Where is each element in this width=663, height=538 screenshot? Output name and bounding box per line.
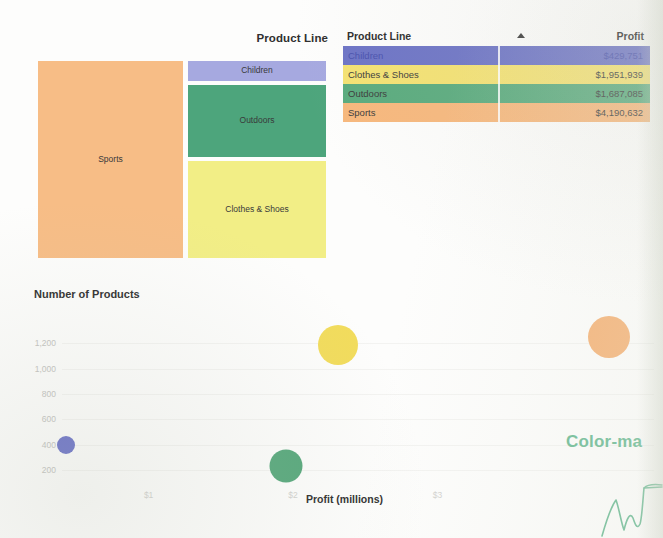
treemap-tile-sports[interactable]: Sports (38, 61, 183, 258)
treemap-tile-clothes-and-shoes[interactable]: Clothes & Shoes (188, 161, 326, 258)
treemap-tile-label: Outdoors (240, 116, 275, 125)
gridline (62, 369, 654, 370)
gridline (62, 419, 654, 420)
x-axis-tick-label: $3 (433, 490, 442, 500)
table-row[interactable]: Sports $4,190,632 (343, 103, 650, 122)
sort-indicator[interactable] (411, 30, 616, 42)
cell-profit: $4,190,632 (500, 107, 650, 118)
profit-table: Product Line Profit Children $429,751 Cl… (343, 30, 650, 122)
scatter-point[interactable] (57, 436, 75, 454)
table-header-row: Product Line Profit (343, 30, 650, 46)
gridline (62, 343, 654, 344)
cell-product-line: Clothes & Shoes (343, 69, 498, 80)
table-row[interactable]: Clothes & Shoes $1,951,939 (343, 65, 650, 84)
treemap-chart: Product Line Sports Children Outdoors Cl… (34, 32, 330, 262)
cell-profit: $1,687,085 (500, 88, 650, 99)
scatter-x-axis-title: Profit (millions) (306, 493, 383, 505)
handwritten-sketch-icon (600, 478, 663, 538)
y-axis-tick-label: 400 (42, 440, 56, 450)
colormap-annotation-text: Color-ma (566, 432, 642, 452)
treemap-title: Product Line (257, 32, 328, 44)
table-row[interactable]: Outdoors $1,687,085 (343, 84, 650, 103)
sort-ascending-icon (517, 33, 525, 38)
treemap-tile-label: Sports (98, 155, 123, 164)
y-axis-tick-label: 200 (42, 465, 56, 475)
cell-product-line: Sports (343, 107, 498, 118)
gridline (62, 470, 654, 471)
x-axis-tick-label: $2 (288, 490, 297, 500)
screenshot-canvas: Product Line Sports Children Outdoors Cl… (0, 0, 663, 538)
scatter-plot-area: 2004006008001,0001,200$1$2$3 (62, 328, 654, 483)
scatter-chart: Number of Products 2004006008001,0001,20… (34, 288, 654, 533)
treemap-tile-label: Children (241, 66, 273, 75)
treemap-tile-label: Clothes & Shoes (225, 205, 288, 214)
scatter-point[interactable] (318, 325, 358, 365)
treemap-tile-children[interactable]: Children (188, 61, 326, 81)
cell-profit: $429,751 (500, 50, 650, 61)
cell-product-line: Children (343, 50, 498, 61)
y-axis-tick-label: 1,200 (35, 338, 56, 348)
x-axis-tick-label: $1 (144, 490, 153, 500)
cell-profit: $1,951,939 (500, 69, 650, 80)
y-axis-tick-label: 800 (42, 389, 56, 399)
column-header-product-line[interactable]: Product Line (347, 30, 411, 42)
table-row[interactable]: Children $429,751 (343, 46, 650, 65)
y-axis-tick-label: 1,000 (35, 364, 56, 374)
column-header-profit[interactable]: Profit (617, 30, 644, 42)
gridline (62, 394, 654, 395)
treemap-tile-outdoors[interactable]: Outdoors (188, 85, 326, 157)
scatter-point[interactable] (269, 449, 302, 482)
y-axis-tick-label: 600 (42, 414, 56, 424)
scatter-y-axis-title: Number of Products (34, 288, 140, 300)
scatter-point[interactable] (588, 316, 630, 358)
cell-product-line: Outdoors (343, 88, 498, 99)
